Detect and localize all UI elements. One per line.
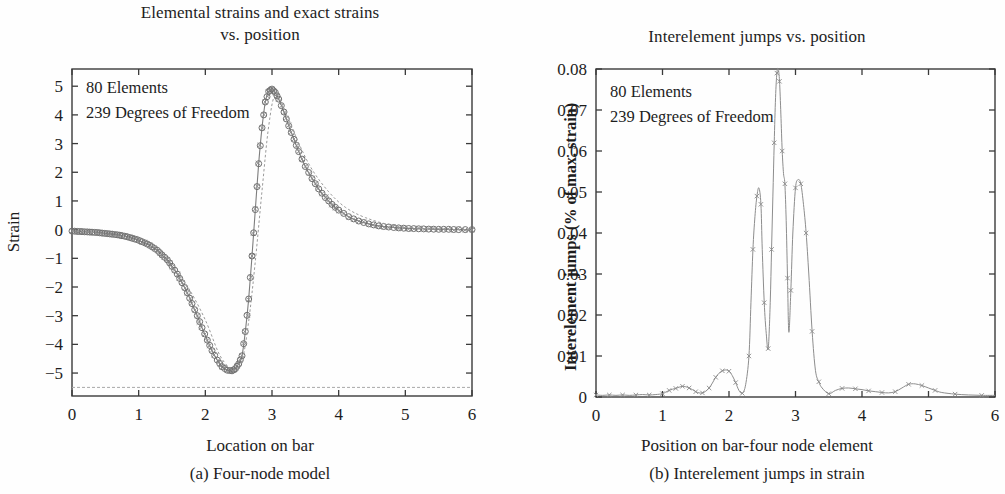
data-marker-x bbox=[300, 157, 305, 162]
y-tick-label: −5 bbox=[45, 364, 63, 383]
data-marker bbox=[734, 380, 738, 384]
plot-annotation: 80 Elements bbox=[86, 78, 168, 97]
data-marker bbox=[714, 375, 718, 379]
plot-annotation: 239 Degrees of Freedom bbox=[610, 107, 774, 126]
data-marker bbox=[687, 386, 691, 390]
panel-b-y-axis-label: Interelement jumps (% of max. strain) bbox=[561, 62, 581, 412]
panel-a-plot: 0123456−5−4−3−2−101234580 Elements239 De… bbox=[0, 0, 502, 430]
x-tick-label: 1 bbox=[658, 406, 667, 425]
y-tick-label: 3 bbox=[55, 135, 64, 154]
data-marker-x bbox=[193, 308, 198, 313]
y-tick-label: 1 bbox=[55, 192, 64, 211]
panel-a-caption: (a) Four-node model bbox=[50, 464, 470, 484]
panel-a-x-axis-label: Location on bar bbox=[60, 436, 460, 456]
panel-interelement-jumps: Interelement jumps vs. position Interele… bbox=[502, 0, 1005, 494]
y-tick-label: −3 bbox=[45, 307, 63, 326]
x-tick-label: 1 bbox=[134, 405, 143, 424]
data-marker-x bbox=[256, 161, 261, 166]
panel-a-title-line1: Elemental strains and exact strains bbox=[60, 2, 460, 24]
panel-a-title-line2: vs. position bbox=[60, 24, 460, 46]
data-marker bbox=[720, 369, 724, 373]
marker-group-circles bbox=[69, 86, 475, 374]
x-tick-label: 4 bbox=[334, 405, 343, 424]
data-curve bbox=[72, 89, 472, 371]
y-tick-label: 0 bbox=[55, 221, 64, 240]
x-tick-label: 0 bbox=[592, 406, 601, 425]
data-marker bbox=[727, 369, 731, 373]
y-tick-label: −4 bbox=[45, 335, 64, 354]
x-tick-label: 3 bbox=[268, 405, 277, 424]
panel-a-y-axis-label: Strain bbox=[4, 202, 24, 262]
panel-a-title: Elemental strains and exact strains vs. … bbox=[60, 2, 460, 46]
exact-strain-curve bbox=[72, 94, 472, 371]
x-tick-label: 2 bbox=[725, 406, 734, 425]
data-marker bbox=[817, 380, 821, 384]
figure-container: Elemental strains and exact strains vs. … bbox=[0, 0, 1005, 494]
plot-annotation: 239 Degrees of Freedom bbox=[86, 103, 250, 122]
panel-four-node-model: Elemental strains and exact strains vs. … bbox=[0, 0, 502, 494]
data-marker-x bbox=[310, 176, 315, 181]
x-tick-label: 4 bbox=[858, 406, 867, 425]
x-tick-label: 5 bbox=[924, 406, 933, 425]
y-tick-label: −2 bbox=[45, 278, 63, 297]
y-tick-label: 2 bbox=[55, 163, 64, 182]
x-tick-label: 6 bbox=[468, 405, 477, 424]
x-tick-label: 5 bbox=[401, 405, 410, 424]
x-tick-label: 2 bbox=[201, 405, 210, 424]
data-marker-x bbox=[292, 137, 297, 142]
x-tick-label: 0 bbox=[68, 405, 77, 424]
y-tick-label: 5 bbox=[55, 77, 64, 96]
y-tick-label: 4 bbox=[55, 106, 64, 125]
data-marker-x bbox=[195, 314, 200, 319]
plot-annotation: 80 Elements bbox=[610, 82, 692, 101]
data-marker bbox=[707, 386, 711, 390]
x-tick-label: 6 bbox=[991, 406, 1000, 425]
data-marker bbox=[667, 388, 671, 392]
y-tick-label: −1 bbox=[45, 249, 63, 268]
panel-b-caption: (b) Interelement jumps in strain bbox=[527, 464, 987, 484]
x-tick-label: 3 bbox=[791, 406, 800, 425]
panel-b-x-axis-label: Position on bar-four node element bbox=[532, 436, 982, 456]
panel-b-title: Interelement jumps vs. position bbox=[542, 26, 972, 48]
data-marker bbox=[694, 390, 698, 394]
